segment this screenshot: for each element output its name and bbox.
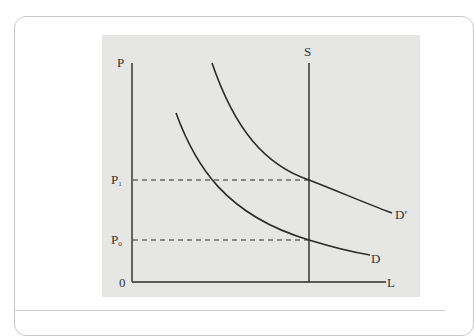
p1-label: P1	[111, 172, 122, 188]
p1-label-subscript: 1	[118, 180, 122, 188]
p0-label: P0	[111, 232, 122, 248]
x-axis-label: L	[387, 275, 395, 290]
demand-label: D	[371, 251, 380, 266]
p0-label-main: P	[111, 232, 118, 247]
origin-label: 0	[119, 275, 126, 290]
y-axis-label: P	[117, 55, 124, 70]
demand-shifted-label: D′	[395, 207, 407, 222]
supply-label: S	[304, 44, 311, 59]
demand-curve	[176, 113, 370, 255]
p0-label-subscript: 0	[118, 240, 122, 248]
demand-shifted-curve	[212, 63, 392, 213]
p1-label-main: P	[111, 172, 118, 187]
